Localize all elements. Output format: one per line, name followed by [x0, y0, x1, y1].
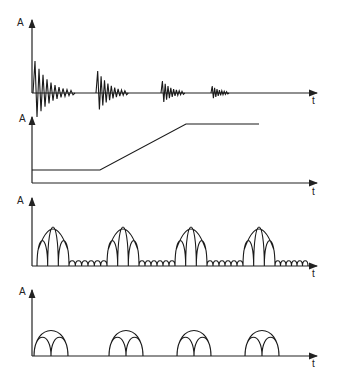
y-axis-label: A [19, 113, 26, 124]
waveform-diagram: A t A t A t A t [0, 0, 337, 381]
ramp-signal [32, 124, 259, 170]
arch-envelope-signal [34, 331, 279, 357]
y-axis-label: A [17, 17, 24, 28]
x-axis-label: t [312, 186, 315, 197]
x-axis-label: t [312, 268, 315, 279]
decay-burst-1 [33, 61, 75, 117]
panel-4: A t [19, 286, 317, 369]
x-axis-label: t [312, 358, 315, 369]
y-axis-label: A [17, 195, 24, 206]
decay-burst-2 [96, 71, 128, 110]
decay-burst-4 [211, 86, 229, 98]
rectified-burst-signal [37, 227, 308, 266]
y-axis-label: A [19, 286, 26, 297]
x-axis-label: t [312, 95, 315, 106]
panel-2: A t [19, 113, 317, 197]
panel-3: A t [17, 195, 317, 279]
panel-1: A t [17, 17, 317, 117]
decay-burst-3 [161, 81, 185, 102]
